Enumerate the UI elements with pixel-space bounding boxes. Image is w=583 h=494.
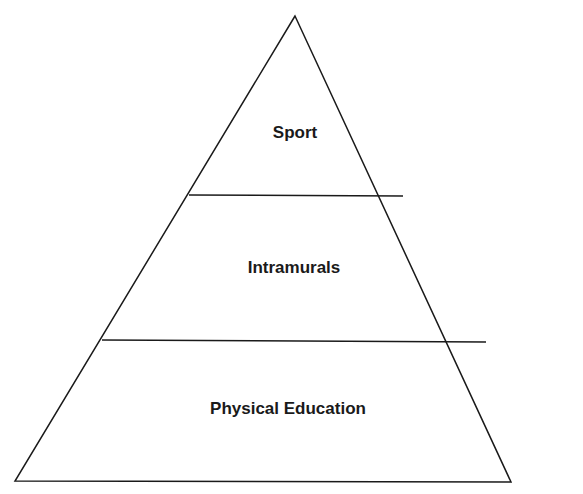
pyramid-diagram — [0, 0, 583, 494]
level-label-middle: Intramurals — [248, 258, 341, 278]
level-label-top: Sport — [273, 123, 317, 143]
divider-bottom — [102, 340, 486, 342]
level-label-bottom: Physical Education — [210, 399, 366, 419]
divider-top — [189, 195, 403, 196]
